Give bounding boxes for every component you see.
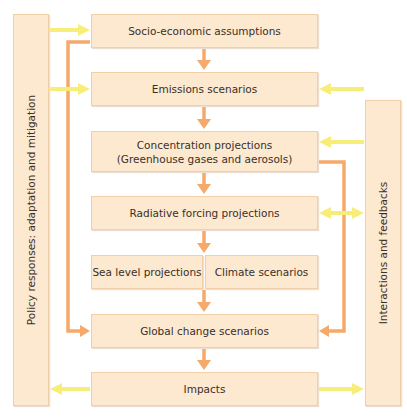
feedback-arrow-to-emissions [319, 83, 364, 95]
climate-scenarios-box: Climate scenarios [205, 255, 318, 289]
concentration-label: Concentration projections [137, 138, 273, 152]
flow-arrow-concentration-radiative [197, 173, 211, 194]
global-change-box: Global change scenarios [91, 314, 318, 348]
flow-arrow-sea-climate-global [197, 290, 211, 312]
bypass-arrow-concentration-global [319, 162, 344, 337]
socio-economic-box: Socio-economic assumptions [91, 14, 318, 48]
emissions-box: Emissions scenarios [91, 72, 318, 106]
policy-arrow-to-emissions [49, 83, 90, 95]
flow-arrow-global-impacts [197, 349, 211, 370]
feedback-double-arrow-radiative [319, 207, 364, 219]
socio-economic-label: Socio-economic assumptions [128, 24, 281, 38]
radiative-forcing-box: Radiative forcing projections [91, 196, 318, 230]
impacts-box: Impacts [91, 372, 318, 406]
flow-arrow-radiative-sea-climate [197, 231, 211, 253]
policy-responses-label: Policy responses: adaptation and mitigat… [25, 95, 37, 325]
interactions-feedbacks-panel: Interactions and feedbacks [365, 100, 401, 406]
bypass-arrow-socio-global [68, 42, 90, 337]
radiative-forcing-label: Radiative forcing projections [129, 206, 279, 220]
concentration-box: Concentration projections (Greenhouse ga… [91, 131, 318, 172]
impacts-arrow-to-policy [50, 383, 90, 395]
policy-responses-panel: Policy responses: adaptation and mitigat… [13, 14, 49, 406]
sea-level-label: Sea level projections [92, 265, 201, 279]
global-change-label: Global change scenarios [140, 324, 269, 338]
feedback-arrow-to-concentration [319, 136, 364, 148]
emissions-label: Emissions scenarios [152, 82, 257, 96]
impacts-label: Impacts [184, 382, 226, 396]
interactions-feedbacks-label: Interactions and feedbacks [377, 182, 389, 325]
climate-scenarios-label: Climate scenarios [215, 265, 309, 279]
sea-level-box: Sea level projections [91, 255, 203, 289]
flow-arrow-socio-emissions [197, 49, 211, 70]
flow-arrow-emissions-concentration [197, 107, 211, 129]
impacts-arrow-to-feedbacks [319, 383, 364, 395]
concentration-sublabel: (Greenhouse gases and aerosols) [117, 152, 293, 166]
policy-arrow-to-socio [49, 24, 90, 36]
